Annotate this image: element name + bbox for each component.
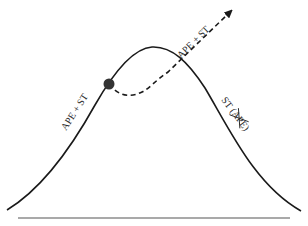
svg-text:ST (APE): ST (APE) (219, 95, 252, 134)
diagram-canvas: APE + ST APE + ST ST (APE) Figure 7.3 Le… (0, 0, 308, 226)
bell-curve (7, 47, 301, 211)
dashed-arrow-label: APE + ST (175, 24, 212, 61)
figure-caption: Figure 7.3 Lengthened life span with con… (32, 223, 253, 226)
right-slope-label: ST (APE) (219, 95, 252, 134)
dashed-trajectory-arrow (109, 12, 230, 95)
inflection-point-dot (104, 79, 115, 90)
left-slope-label: APE + ST (58, 92, 90, 133)
